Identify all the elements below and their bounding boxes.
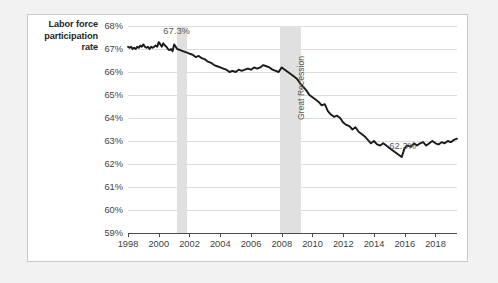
- y-tick-label: 59%: [93, 228, 123, 238]
- y-tick-label: 60%: [93, 205, 123, 215]
- x-tick-mark: [374, 233, 375, 237]
- x-tick-mark: [159, 233, 160, 237]
- y-tick-label: 62%: [93, 159, 123, 169]
- x-tick-mark: [343, 233, 344, 237]
- x-tick-mark: [312, 233, 313, 237]
- value-annotation: 67.3%: [163, 25, 190, 36]
- plot-area: 67.3%62.3%Great Recession: [128, 26, 457, 233]
- x-tick-label: 2018: [415, 239, 455, 249]
- value-annotation: 62.3%: [389, 140, 416, 151]
- x-tick-mark: [128, 233, 129, 237]
- x-tick-mark: [189, 233, 190, 237]
- y-tick-label: 61%: [93, 182, 123, 192]
- chart-screenshot: Labor force participation rate 59%60%61%…: [0, 0, 498, 283]
- y-axis-title-line-1: Labor force: [32, 19, 98, 31]
- x-tick-mark: [220, 233, 221, 237]
- y-axis-title-line-2: participation: [32, 31, 98, 43]
- x-tick-mark: [251, 233, 252, 237]
- x-axis-line: [128, 233, 457, 234]
- y-tick-label: 67%: [93, 44, 123, 54]
- x-tick-mark: [405, 233, 406, 237]
- y-tick-label: 66%: [93, 67, 123, 77]
- y-axis-title-line-3: rate: [32, 42, 98, 54]
- x-tick-mark: [282, 233, 283, 237]
- x-tick-mark: [435, 233, 436, 237]
- recession-annotation: Great Recession: [296, 56, 306, 120]
- y-axis-tick-labels: 59%60%61%62%63%64%65%66%67%68%: [92, 26, 123, 233]
- y-tick-label: 65%: [93, 90, 123, 100]
- series-line: [128, 26, 457, 233]
- y-axis-title: Labor force participation rate: [32, 19, 98, 54]
- y-tick-label: 63%: [93, 136, 123, 146]
- y-tick-label: 68%: [93, 21, 123, 31]
- y-tick-label: 64%: [93, 113, 123, 123]
